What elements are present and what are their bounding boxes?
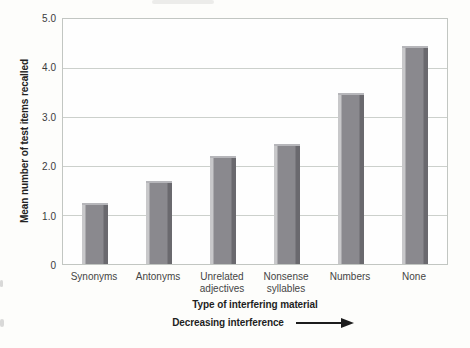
decreasing-interference-annotation: Decreasing interference (70, 317, 456, 328)
category-label-synonyms: Synonyms (59, 271, 129, 283)
category-label-nonsense-syllables: Nonsense syllables (251, 271, 321, 295)
category-label-numbers: Numbers (315, 271, 385, 283)
scan-artifact (0, 280, 3, 287)
bar-nonsense-syllables (274, 144, 300, 264)
gridline-1.0 (63, 215, 447, 216)
scan-artifact (0, 319, 4, 327)
y-tick-4.0: 4.0 (24, 62, 56, 73)
bar-none (402, 46, 428, 264)
arrow-shaft (296, 322, 342, 324)
gridline-3.0 (63, 117, 447, 118)
plot-area (62, 18, 448, 265)
y-tick-5.0: 5.0 (24, 13, 56, 24)
bar-antonyms (146, 181, 172, 264)
figure-bar-chart: Mean number of test items recalled 5.04.… (0, 0, 470, 348)
bar-synonyms (82, 203, 108, 264)
x-axis-title: Type of interfering material (62, 299, 448, 310)
category-label-unrelated-adjectives: Unrelated adjectives (187, 271, 257, 295)
category-label-antonyms: Antonyms (123, 271, 193, 283)
bar-unrelated-adjectives (210, 156, 236, 264)
annotation-label: Decreasing interference (172, 317, 284, 328)
y-tick-2.0: 2.0 (24, 161, 56, 172)
gridline-2.0 (63, 166, 447, 167)
y-tick-0: 0 (24, 260, 56, 271)
arrow-head (341, 318, 354, 328)
bar-numbers (338, 93, 364, 265)
y-axis-title: Mean number of test items recalled (19, 59, 30, 223)
gridline-4.0 (63, 68, 447, 69)
y-tick-1.0: 1.0 (24, 211, 56, 222)
category-label-none: None (379, 271, 449, 283)
scan-artifact (152, 0, 214, 4)
y-tick-3.0: 3.0 (24, 112, 56, 123)
right-arrow-icon (296, 318, 354, 328)
